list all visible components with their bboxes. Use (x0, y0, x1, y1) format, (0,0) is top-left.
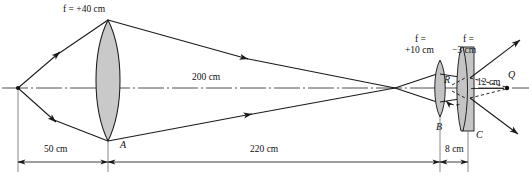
lens-3-concave-face (457, 47, 468, 131)
bottom-dimensions (18, 90, 468, 172)
point-Q-label: Q (508, 69, 516, 80)
lens-1-focal-label: f = +40 cm (63, 4, 106, 14)
lens-1-converging (96, 20, 120, 141)
point-C-label: C (476, 129, 483, 140)
point-R-label: R (443, 74, 450, 85)
refracted-rays-lens1 (108, 20, 395, 141)
point-A-label: A (119, 139, 127, 150)
incident-rays (16, 20, 108, 141)
lens-2-body (435, 60, 446, 117)
dim-50cm-label: 50 cm (44, 144, 68, 154)
incident-ray-upper-seg1 (18, 52, 60, 88)
lens-3-focal-label-line1: f = (463, 34, 474, 44)
incident-ray-lower-seg2 (54, 120, 108, 141)
lens-3-diverging (457, 47, 474, 131)
lens-2-focal-label-line2: +10 cm (405, 45, 434, 55)
virtual-ray-lower-to-Q (470, 89, 506, 98)
image-point-Q-dot (505, 86, 509, 90)
dim-220cm-label: 220 cm (250, 144, 279, 154)
dim-12cm-label: 12 cm (477, 77, 501, 87)
refracted-ray-upper-seg1 (108, 20, 248, 59)
ray-diagram-canvas: f = +40 cm f = +10 cm f = −3 cm 200 cm 5… (0, 0, 529, 180)
point-B-label: B (436, 121, 442, 132)
refracted-ray-lower-seg1 (108, 114, 252, 141)
lens-1-body (96, 20, 120, 141)
exit-rays (470, 40, 520, 134)
lens-2-focal-label-line1: f = (415, 34, 426, 44)
incident-ray-lower-seg1 (18, 88, 56, 122)
optics-figure: f = +40 cm f = +10 cm f = −3 cm 200 cm 5… (0, 0, 529, 180)
lens-3-focal-label-line2: −3 cm (452, 45, 477, 55)
axis-200cm-label: 200 cm (192, 72, 221, 82)
refracted-ray-upper-seg2 (246, 59, 395, 89)
object-point-dot (16, 86, 20, 90)
lens-2-converging (435, 60, 446, 117)
ray-cross-to-lens2-lower (395, 88, 437, 102)
refracted-ray-lower-seg2 (250, 88, 395, 115)
ray-cross-to-lens2-upper (395, 74, 437, 88)
dim-8cm-label: 8 cm (445, 144, 464, 154)
